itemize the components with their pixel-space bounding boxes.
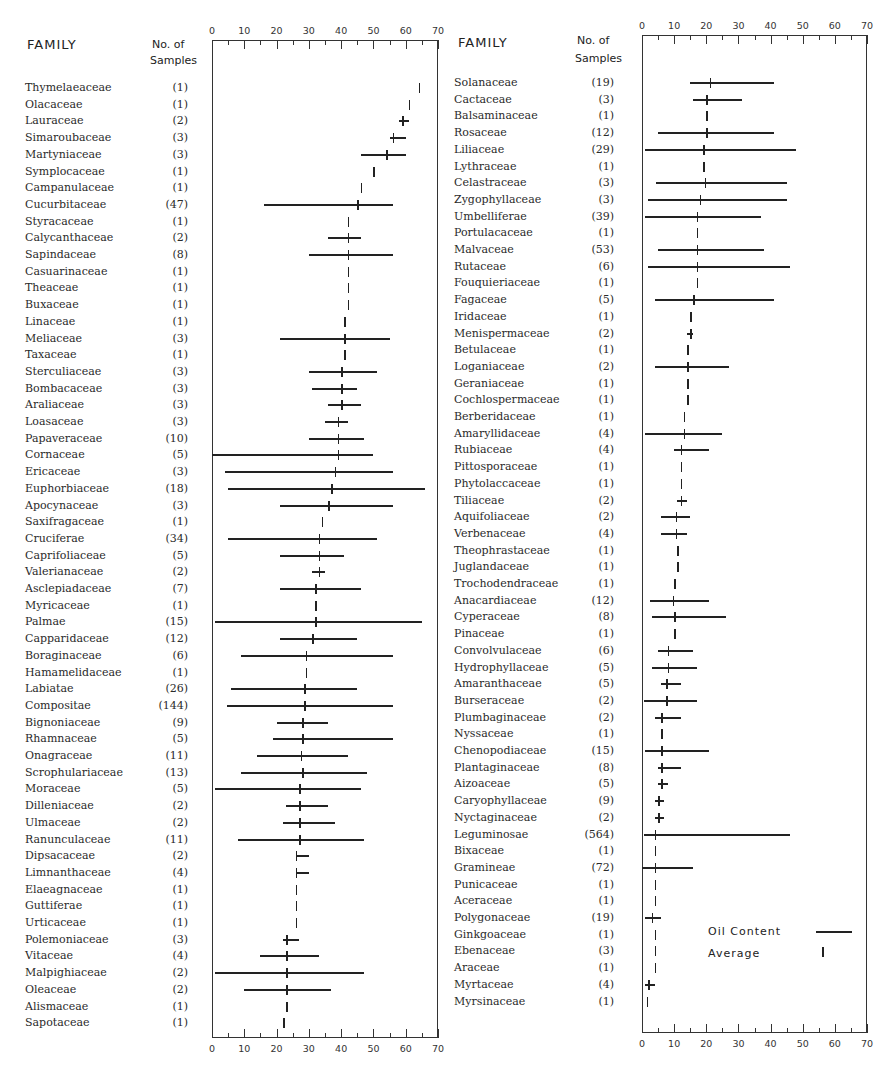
axis-tick-label: 30 (303, 25, 315, 36)
oil-content-range-bar (215, 788, 360, 790)
oil-content-range-bar (645, 984, 655, 986)
oil-content-range-bar (655, 366, 729, 368)
family-name: Cucurbitaceae (25, 198, 106, 212)
axis-tick (390, 40, 391, 45)
average-marker (674, 612, 676, 622)
axis-tick (357, 1033, 358, 1038)
sample-count: (5) (574, 777, 614, 791)
family-name: Caryophyllaceae (454, 794, 547, 808)
family-name: Hydrophyllaceae (454, 661, 548, 675)
family-name: Scrophulariaceae (25, 766, 123, 780)
sample-count: (2) (574, 327, 614, 341)
axis-tick (277, 40, 278, 49)
samples-header-line2: Samples (575, 51, 622, 67)
axis-tick (244, 1029, 245, 1038)
family-name: Labiatae (25, 682, 73, 696)
family-name: Portulacaceae (454, 226, 533, 240)
average-marker (648, 980, 650, 990)
axis-tick (293, 1033, 294, 1038)
axis-tick-label: 0 (209, 25, 215, 36)
sample-count: (39) (574, 210, 614, 224)
average-marker (315, 617, 317, 627)
family-name: Thymelaeaceae (25, 81, 111, 95)
sample-count: (3) (148, 148, 188, 162)
family-name: Lythraceae (454, 160, 516, 174)
sample-count: (2) (574, 711, 614, 725)
oil-content-range-bar (661, 683, 680, 685)
average-marker (302, 718, 304, 728)
average-marker (341, 367, 343, 377)
axis-tick-label: 20 (700, 1038, 712, 1049)
sample-count: (10) (148, 432, 188, 446)
sample-count: (1) (148, 515, 188, 529)
right-chart-panel: FAMILY No. of Samples 010203040506070 01… (446, 0, 892, 1067)
oil-content-range-bar (661, 533, 687, 535)
sample-count: (4) (574, 978, 614, 992)
family-name: Plantaginaceae (454, 761, 539, 775)
family-name: Amaryllidaceae (454, 427, 540, 441)
axis-tick (438, 1029, 439, 1038)
sample-count: (1) (148, 1016, 188, 1030)
average-marker (661, 713, 663, 723)
average-marker (361, 183, 363, 193)
sample-count: (1) (574, 160, 614, 174)
average-marker (674, 629, 676, 639)
sample-count: (1) (148, 281, 188, 295)
sample-count: (1) (148, 666, 188, 680)
family-name: Dipsacaceae (25, 849, 95, 863)
average-marker (668, 663, 670, 673)
sample-count: (2) (148, 231, 188, 245)
oil-content-range-bar (693, 99, 741, 101)
family-name: Guttiferae (25, 899, 82, 913)
sample-count: (2) (148, 966, 188, 980)
average-marker (677, 562, 679, 572)
axis-tick (325, 40, 326, 45)
average-marker (386, 150, 388, 160)
oil-content-range-bar (296, 872, 309, 874)
sample-count: (1) (574, 377, 614, 391)
average-marker (344, 317, 346, 327)
average-marker (286, 951, 288, 961)
sample-count: (1) (148, 215, 188, 229)
average-marker (319, 534, 321, 544)
sample-count: (6) (574, 260, 614, 274)
average-marker (319, 551, 321, 561)
average-marker (286, 985, 288, 995)
oil-content-range-bar (273, 738, 392, 740)
axis-tick (309, 40, 310, 49)
average-marker (348, 233, 350, 243)
samples-header-line2: Samples (150, 53, 197, 69)
average-marker (690, 329, 692, 339)
sample-count: (3) (574, 93, 614, 107)
family-name: Betulaceae (454, 343, 516, 357)
family-name: Phytolaccaceae (454, 477, 540, 491)
oil-content-range-bar (280, 638, 357, 640)
family-name: Valerianaceae (25, 565, 103, 579)
family-name: Pinaceae (454, 627, 504, 641)
oil-content-range-bar (227, 705, 393, 707)
sample-count: (2) (148, 849, 188, 863)
average-marker (703, 162, 705, 172)
sample-count: (3) (148, 465, 188, 479)
oil-content-range-bar (312, 388, 357, 390)
sample-count: (3) (574, 193, 614, 207)
axis-tick-label: 20 (271, 1043, 283, 1054)
family-name: Sapotaceae (25, 1016, 89, 1030)
sample-count: (1) (148, 899, 188, 913)
family-name: Theaceae (25, 281, 78, 295)
oil-content-range-bar (644, 834, 790, 836)
sample-count: (8) (148, 248, 188, 262)
average-marker (299, 801, 301, 811)
family-name: Iridaceae (454, 310, 506, 324)
axis-tick (851, 35, 852, 40)
sample-count: (1) (574, 995, 614, 1009)
sample-count: (19) (574, 911, 614, 925)
family-name: Limnanthaceae (25, 866, 111, 880)
oil-content-range-bar (655, 817, 665, 819)
axis-tick (212, 40, 213, 49)
oil-content-range-bar (257, 755, 347, 757)
family-name: Rubiaceae (454, 443, 512, 457)
sample-count: (34) (148, 532, 188, 546)
average-marker (312, 634, 314, 644)
family-name: Buxaceae (25, 298, 79, 312)
